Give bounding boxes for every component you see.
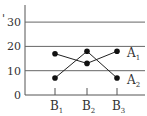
series-labels: A1A2 [126,46,140,89]
y-tick-label: 10 [7,65,21,78]
y-tick-labels: 0102030 [7,16,21,102]
data-point [84,61,90,67]
series-label: A2 [126,73,140,89]
data-point [114,48,120,54]
series-lines [52,48,120,80]
series-label: A1 [126,46,140,62]
axis-mark: ' [2,12,5,25]
line-chart: 0102030 B1B2B3 A1A2 ' [0,0,147,116]
x-tick-labels: B1B2B3 [50,88,125,115]
x-tick-label: B2 [82,99,95,115]
data-point [52,75,58,81]
data-point [114,75,120,81]
x-tick-label: B3 [112,99,125,115]
y-tick-label: 20 [7,40,21,53]
data-point [52,51,58,57]
y-tick-label: 30 [7,16,21,29]
y-tick-label: 0 [14,89,21,102]
x-tick-label: B1 [50,99,63,115]
data-point [84,48,90,54]
